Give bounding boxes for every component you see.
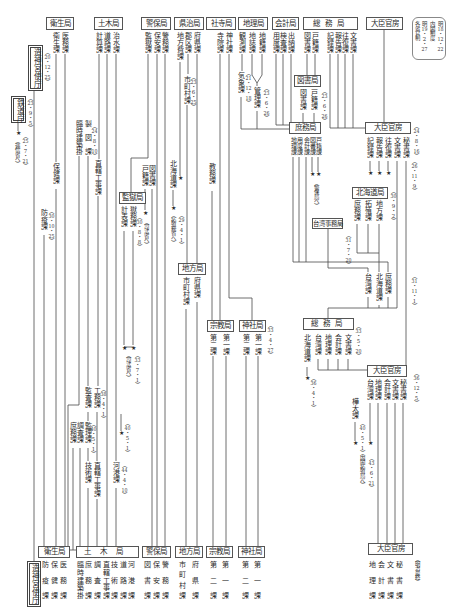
section-label: 技術課 xyxy=(84,462,92,483)
section-label: 文書課 xyxy=(386,561,394,599)
date-label: （30・10・25） xyxy=(48,208,55,243)
date-label: （24・8・16） xyxy=(413,123,420,158)
office-box-zojingu: 造神宮使庁 xyxy=(28,45,43,91)
section-label: 庶務課 xyxy=(384,273,392,294)
bureau-box-shukyo-mid: 宗教局 xyxy=(207,320,234,332)
note-date-cabinet: 明18・12・22 xyxy=(437,21,444,51)
section-label: 臨時建築掛 xyxy=(76,561,84,599)
section-label: 道路課 xyxy=(103,32,111,53)
section-label: 秘書課 xyxy=(399,379,407,400)
date-label: （23・6・26） xyxy=(263,85,270,120)
section-label: 観測課 xyxy=(238,32,246,53)
bureau-box-chiri-top: 地理局 xyxy=(238,17,268,30)
bureau-box-hokkaidokyoku: 北海道局 xyxy=(352,187,388,199)
section-label: 会計課 xyxy=(383,379,391,400)
bureau-box-kangoku: 監獄局 xyxy=(119,192,146,204)
date-label: （31・11・1） xyxy=(411,273,418,308)
bureau-box-shaji-top: 社寺局 xyxy=(206,17,236,30)
section-label: 往復課 xyxy=(384,137,392,158)
section-label: 報告課 xyxy=(334,32,342,53)
section-label: 医務課 xyxy=(59,561,67,599)
section-label: 地誌課 xyxy=(248,32,256,53)
section-label: 図書課 xyxy=(148,165,156,186)
section-label: 監査課 xyxy=(84,387,92,408)
date-label: （21・12・18） xyxy=(245,70,252,105)
transfer-star-icon: ★ xyxy=(121,345,127,351)
section-label: 第二課 xyxy=(209,561,217,599)
date-label: （29・4・1） xyxy=(178,212,185,247)
bureau-box-kenji-top: 県治局 xyxy=(174,17,204,30)
section-label: 出納課 xyxy=(287,32,295,53)
section-label: 府県課 xyxy=(191,561,199,599)
date-label: （23・6・26） xyxy=(321,88,328,123)
section-label: 調査課 xyxy=(76,422,84,443)
section-label: 往復課 xyxy=(341,32,349,53)
section-label: 文書課 xyxy=(349,32,357,53)
section-label: 保健課 xyxy=(50,561,58,599)
section-label: 河港課 xyxy=(127,561,135,599)
section-label: 地理課 xyxy=(290,137,297,155)
section-label: 計表課 xyxy=(120,206,128,227)
date-label: （33・4・27） xyxy=(267,322,274,357)
section-label: 第一課 xyxy=(253,561,261,599)
section-label: 台湾課 xyxy=(366,379,374,400)
transfer-note: （逓信省へ） xyxy=(14,138,21,166)
note-date-ministries: 明19・2・27 xyxy=(421,21,428,51)
section-label: 図書課 xyxy=(143,561,151,599)
section-label: 医務課 xyxy=(61,32,69,53)
bureau-box-shomukyoku: 庶務局 xyxy=(289,122,321,134)
transfer-star-icon: ★ xyxy=(367,440,373,446)
section-label: 警務課 xyxy=(161,32,169,53)
abolished-star-icon: ★ xyxy=(177,175,183,181)
abolished-star-icon: ★ xyxy=(367,170,373,176)
section-label: 計算課 xyxy=(95,32,103,53)
section-label: 拓殖課 xyxy=(364,200,372,221)
bureau-box-kanbo-top: 大臣官房 xyxy=(366,17,403,30)
transfer-note: （内閣拓殖局へ） xyxy=(359,450,366,487)
transfer-star-icon: ★ xyxy=(315,171,321,177)
bureau-box-kanbo-final: 大臣官房 xyxy=(368,543,413,555)
transfer-note: （司法省へ） xyxy=(143,219,150,247)
section-label: 臨時建築掛 xyxy=(75,120,83,155)
final-period-note: （明治最終） xyxy=(414,556,421,584)
section-label: 第二課 xyxy=(242,334,250,355)
section-label: 記録課 xyxy=(366,137,374,158)
bureau-box-eisei-top: 衛生局 xyxy=(46,17,74,30)
section-label: 会計課 xyxy=(303,137,310,155)
section-label: 報告課 xyxy=(375,137,383,158)
section-label: 戸籍課 xyxy=(311,32,319,53)
office-box-zojingu-final: 造神宮使庁 xyxy=(27,561,41,607)
section-label: 地理課 xyxy=(374,379,382,400)
section-label: 監獄課 xyxy=(144,32,152,53)
bureau-box-eisei-final: 衛生局 xyxy=(38,546,70,558)
section-label: 管理課 xyxy=(253,87,261,108)
abolished-star-icon: ★ xyxy=(376,170,382,176)
section-label: 獄務課 xyxy=(129,206,137,227)
date-label: （36・12・5） xyxy=(413,370,420,405)
bureau-box-keiho-final: 警保局 xyxy=(142,546,171,558)
section-label: 図書課 xyxy=(303,32,311,53)
section-label: 秘書課 xyxy=(402,137,410,158)
transfer-note: （警保局へ） xyxy=(313,180,320,208)
section-label: 地理課 xyxy=(368,561,376,599)
bureau-box-taiwan-jimukyoku: 台湾事務局 xyxy=(312,218,343,229)
transfer-star-icon: ★ xyxy=(130,345,136,351)
section-label: 直轄工事課 xyxy=(93,462,101,497)
connector-lines xyxy=(0,0,452,615)
section-label: 保安課 xyxy=(153,32,161,53)
section-label: 保健課 xyxy=(52,163,60,184)
section-label: 検査課 xyxy=(279,32,287,53)
transfer-note: （司法省へ） xyxy=(125,352,132,380)
section-label: 台湾課 xyxy=(364,273,372,294)
section-label: 郡区課 xyxy=(184,32,192,53)
section-label: 会計課 xyxy=(377,561,385,599)
bureau-box-kaikei-top: 会計局 xyxy=(272,17,299,30)
date-label: （33・5・20） xyxy=(355,323,362,358)
section-label: 樺太課 xyxy=(351,398,359,419)
section-label: 調査課 xyxy=(93,561,101,599)
date-label: （23・6・25） xyxy=(190,74,197,109)
section-label: 第一課 xyxy=(222,334,230,355)
date-label: （33・7・1） xyxy=(134,352,141,387)
section-label: 庶務課 xyxy=(353,200,361,221)
section-label: 神社課 xyxy=(225,32,233,53)
